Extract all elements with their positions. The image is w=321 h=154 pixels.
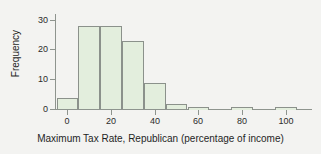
histogram-bar <box>122 41 144 109</box>
y-axis-tick-10 <box>50 79 55 80</box>
y-axis-tick-label-20: 20 <box>24 45 48 54</box>
x-axis-tick-label-40: 40 <box>140 117 170 126</box>
histogram-bar <box>100 26 122 109</box>
x-axis-tick-20 <box>111 110 112 115</box>
x-axis-tick-60 <box>198 110 199 115</box>
y-axis-title: Frequency <box>10 14 21 94</box>
histogram-bar <box>166 104 188 110</box>
x-axis-tick-label-60: 60 <box>183 117 213 126</box>
x-axis-tick-label-0: 0 <box>52 117 82 126</box>
x-axis-tick-100 <box>286 110 287 115</box>
histogram-bar <box>275 107 297 110</box>
x-axis-title: Maximum Tax Rate, Republican (percentage… <box>0 133 321 144</box>
histogram-screenshot: 30 20 10 0 0 20 40 60 80 100 Frequency M… <box>0 0 321 154</box>
y-axis-tick-label-10: 10 <box>24 75 48 84</box>
histogram-bar <box>188 107 210 110</box>
x-axis-tick-0 <box>67 110 68 115</box>
x-axis-tick-40 <box>155 110 156 115</box>
histogram-bar <box>231 107 253 110</box>
histogram-bar <box>57 98 79 110</box>
x-axis-tick-label-100: 100 <box>271 117 301 126</box>
histogram-bar <box>78 26 100 109</box>
x-axis-tick-label-80: 80 <box>227 117 257 126</box>
y-axis-line <box>55 14 56 110</box>
histogram-bar <box>144 83 166 110</box>
y-axis-tick-0 <box>50 109 55 110</box>
y-axis-tick-20 <box>50 49 55 50</box>
x-axis-tick-label-20: 20 <box>96 117 126 126</box>
x-axis-tick-80 <box>242 110 243 115</box>
y-axis-tick-label-30: 30 <box>24 16 48 25</box>
chart-plot-area: 30 20 10 0 0 20 40 60 80 100 Frequency M… <box>0 0 321 154</box>
y-axis-tick-30 <box>50 20 55 21</box>
y-axis-tick-label-0: 0 <box>24 105 48 114</box>
